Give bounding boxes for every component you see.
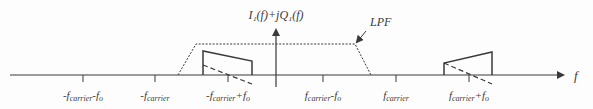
tick-labels: -fcarrier-fo -fcarrier -fcarrier+fo fcar…: [63, 89, 489, 103]
positive-frequency-spectrum: [444, 52, 492, 75]
negative-frequency-spectrum: [203, 51, 252, 75]
vertical-axis-label: I₁(f)+jQ₁(f): [247, 8, 303, 22]
tick-label-fc-minus-fo: fcarrier-fo: [305, 89, 341, 103]
tick-label-fc: fcarrier: [383, 89, 410, 103]
lpf-pointer-arrow: [357, 31, 366, 42]
positive-frequency-image-dashed: [444, 63, 492, 84]
lpf-response: [178, 44, 371, 75]
tick-label-neg-fc-minus-fo: -fcarrier-fo: [63, 89, 103, 103]
frequency-axis-label: f: [574, 68, 580, 83]
tick-label-neg-fc: -fcarrier: [140, 89, 170, 103]
lpf-label: LPF: [369, 15, 392, 29]
tick-label-neg-fc-plus-fo: -fcarrier+fo: [206, 89, 250, 103]
spectrum-diagram: f I₁(f)+jQ₁(f) -fcarrier-fo -fcarrier -f…: [0, 0, 593, 109]
tick-label-fc-plus-fo: fcarrier+fo: [449, 89, 489, 103]
